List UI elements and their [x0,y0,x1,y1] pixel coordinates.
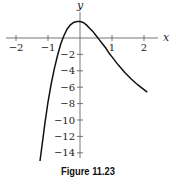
y-tick-label: −4 [60,65,75,76]
x-axis-label: x [163,31,170,44]
x-tick-label: −2 [9,42,24,53]
x-tick-label: −1 [41,42,56,53]
y-tick-label: −2 [60,49,75,60]
x-tick-label: 2 [141,42,147,53]
y-tick-label: −12 [54,131,75,142]
y-tick-label: −8 [60,98,75,109]
y-tick-label: −10 [54,115,75,126]
y-axis-label: y [76,0,84,12]
x-tick-label: 1 [109,42,115,53]
figure-caption: Figure 11.23 [13,165,163,177]
chart: xy −2−112−2−4−6−8−10−12−14 [0,0,176,165]
y-tick-label: −6 [60,82,75,93]
y-tick-label: −14 [54,147,75,158]
ticks: −2−112−2−4−6−8−10−12−14 [9,35,148,158]
axes: xy [6,0,170,158]
